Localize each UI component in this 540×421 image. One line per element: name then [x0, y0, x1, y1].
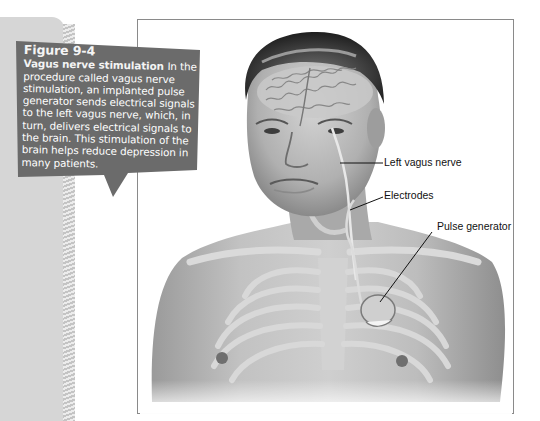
- torso: [140, 222, 512, 414]
- label-electrodes: Electrodes: [384, 189, 434, 201]
- figure-caption-body: In the procedure called vagus nerve stim…: [21, 60, 197, 169]
- pulse-generator: [361, 295, 395, 326]
- head: [245, 32, 385, 216]
- callout-text: Figure 9-4 Vagus nerve stimulation In th…: [21, 44, 202, 172]
- label-left-vagus-nerve: Left vagus nerve: [384, 156, 462, 168]
- label-pulse-generator: Pulse generator: [437, 220, 511, 232]
